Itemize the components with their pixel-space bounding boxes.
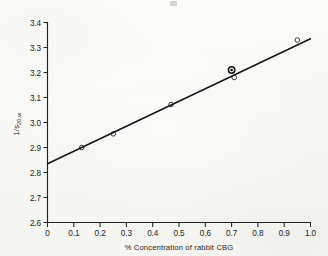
x-tick-label: 0 (45, 229, 50, 238)
y-tick-label: 3.0 (30, 119, 42, 128)
y-tick-label: 3.1 (30, 94, 42, 103)
y-tick-label: 2.6 (30, 219, 42, 228)
data-point-marker (295, 38, 300, 43)
x-axis-tick-labels: 0 0.1 0.2 0.3 0.4 0.5 0.6 0.7 0.8 0.9 1.… (45, 229, 316, 238)
y-axis-title-subscript: 20,w (16, 112, 22, 125)
x-tick-label: 0.4 (147, 229, 159, 238)
y-axis-ticks (44, 23, 48, 223)
highlighted-point-core (230, 69, 233, 72)
y-tick-label: 2.8 (30, 169, 42, 178)
x-tick-label: 0.5 (173, 229, 185, 238)
y-tick-label: 2.9 (30, 144, 42, 153)
figure-container: 2.6 2.7 2.8 2.9 3.0 3.1 3.2 3.3 3.4 0 (0, 0, 328, 256)
x-tick-label: 0.1 (68, 229, 80, 238)
svg-text:1/s20,w: 1/s20,w (12, 112, 22, 136)
x-tick-label: 0.6 (200, 229, 212, 238)
y-tick-label: 2.7 (30, 194, 42, 203)
scatter-plot: 2.6 2.7 2.8 2.9 3.0 3.1 3.2 3.3 3.4 0 (0, 0, 328, 256)
y-axis-title-main: 1/s (12, 125, 21, 136)
y-tick-label: 3.4 (30, 19, 42, 28)
x-axis-title: % Concentration of rabbit CBG (125, 243, 234, 252)
x-tick-label: 0.7 (226, 229, 238, 238)
y-axis-tick-labels: 2.6 2.7 2.8 2.9 3.0 3.1 3.2 3.3 3.4 (30, 19, 42, 228)
x-tick-label: 0.8 (252, 229, 264, 238)
highlighted-data-point (228, 67, 234, 73)
regression-fit-line (48, 39, 311, 164)
y-tick-label: 3.3 (30, 44, 42, 53)
y-tick-label: 3.2 (30, 69, 42, 78)
y-axis-title: 1/s20,w (12, 112, 22, 136)
x-axis-ticks (48, 223, 311, 228)
x-tick-label: 0.2 (95, 229, 107, 238)
axes-group (48, 23, 311, 223)
x-tick-label: 0.3 (121, 229, 133, 238)
x-tick-label: 0.9 (279, 229, 291, 238)
x-tick-label: 1.0 (305, 229, 317, 238)
